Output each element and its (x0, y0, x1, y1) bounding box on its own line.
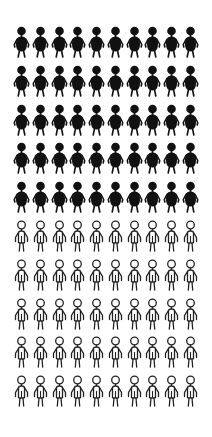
person-filled-icon (50, 104, 69, 143)
person-filled-icon (50, 65, 69, 104)
person-filled-icon (87, 181, 106, 220)
person-outline-icon (12, 259, 31, 298)
pictogram-row (12, 104, 204, 143)
person-outline-icon (125, 336, 144, 375)
person-outline-icon (87, 259, 106, 298)
person-outline-icon (181, 298, 200, 337)
person-outline-icon (68, 298, 87, 337)
person-outline-icon (106, 375, 125, 414)
person-filled-icon (50, 142, 69, 181)
person-filled-icon (162, 142, 181, 181)
person-filled-icon (68, 181, 87, 220)
person-filled-icon (31, 26, 50, 65)
pictogram-row (12, 375, 204, 414)
pictogram-row (12, 26, 204, 65)
person-filled-icon (31, 65, 50, 104)
person-outline-icon (31, 259, 50, 298)
person-filled-icon (68, 26, 87, 65)
person-outline-icon (50, 298, 69, 337)
person-filled-icon (106, 181, 125, 220)
person-outline-icon (87, 375, 106, 414)
person-outline-icon (31, 220, 50, 259)
person-outline-icon (144, 375, 163, 414)
person-filled-icon (181, 26, 200, 65)
person-outline-icon (125, 220, 144, 259)
pictogram-row (12, 220, 204, 259)
person-filled-icon (12, 65, 31, 104)
person-filled-icon (31, 181, 50, 220)
person-filled-icon (106, 26, 125, 65)
person-outline-icon (31, 336, 50, 375)
pictogram-row (12, 65, 204, 104)
person-outline-icon (68, 375, 87, 414)
pictogram-row (12, 142, 204, 181)
person-filled-icon (12, 181, 31, 220)
person-filled-icon (181, 65, 200, 104)
person-filled-icon (106, 142, 125, 181)
person-outline-icon (50, 336, 69, 375)
person-outline-icon (68, 220, 87, 259)
person-outline-icon (181, 259, 200, 298)
person-filled-icon (144, 142, 163, 181)
person-outline-icon (162, 259, 181, 298)
person-outline-icon (12, 375, 31, 414)
pictogram-row (12, 336, 204, 375)
person-filled-icon (144, 181, 163, 220)
person-outline-icon (31, 298, 50, 337)
person-filled-icon (68, 65, 87, 104)
person-filled-icon (50, 26, 69, 65)
person-filled-icon (12, 104, 31, 143)
pictogram-row (12, 259, 204, 298)
person-outline-icon (162, 375, 181, 414)
person-outline-icon (125, 375, 144, 414)
person-outline-icon (68, 259, 87, 298)
person-filled-icon (87, 104, 106, 143)
person-outline-icon (162, 336, 181, 375)
person-filled-icon (181, 181, 200, 220)
person-outline-icon (12, 298, 31, 337)
person-filled-icon (125, 181, 144, 220)
person-filled-icon (106, 65, 125, 104)
person-outline-icon (87, 336, 106, 375)
person-filled-icon (162, 65, 181, 104)
person-filled-icon (125, 142, 144, 181)
person-outline-icon (106, 220, 125, 259)
person-outline-icon (50, 259, 69, 298)
person-filled-icon (68, 104, 87, 143)
person-filled-icon (144, 26, 163, 65)
person-filled-icon (181, 142, 200, 181)
person-filled-icon (31, 142, 50, 181)
person-filled-icon (68, 142, 87, 181)
person-filled-icon (181, 104, 200, 143)
person-filled-icon (144, 104, 163, 143)
person-filled-icon (162, 181, 181, 220)
person-outline-icon (144, 336, 163, 375)
person-outline-icon (87, 298, 106, 337)
person-outline-icon (87, 220, 106, 259)
pictogram-row (12, 298, 204, 337)
person-outline-icon (144, 259, 163, 298)
person-filled-icon (12, 142, 31, 181)
person-outline-icon (68, 336, 87, 375)
person-filled-icon (125, 65, 144, 104)
person-filled-icon (12, 26, 31, 65)
person-filled-icon (162, 26, 181, 65)
person-outline-icon (125, 298, 144, 337)
pictogram-row (12, 181, 204, 220)
person-outline-icon (31, 375, 50, 414)
person-outline-icon (125, 259, 144, 298)
pictogram-grid (12, 26, 204, 414)
person-filled-icon (87, 65, 106, 104)
person-filled-icon (106, 104, 125, 143)
person-outline-icon (181, 336, 200, 375)
person-outline-icon (181, 220, 200, 259)
person-filled-icon (144, 65, 163, 104)
person-outline-icon (106, 336, 125, 375)
person-outline-icon (144, 298, 163, 337)
person-outline-icon (162, 298, 181, 337)
person-outline-icon (181, 375, 200, 414)
person-filled-icon (50, 181, 69, 220)
person-outline-icon (106, 259, 125, 298)
person-outline-icon (106, 298, 125, 337)
person-outline-icon (162, 220, 181, 259)
